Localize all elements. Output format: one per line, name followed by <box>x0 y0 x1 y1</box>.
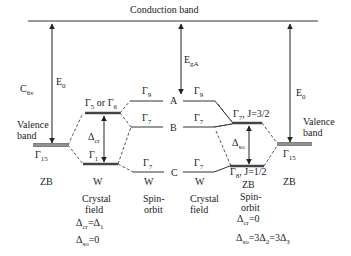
svg-text:W: W <box>93 176 103 187</box>
spin-orbit-w: Γ9 Γ7 Γ7 A B C W Spin- orbit <box>130 85 178 215</box>
right-valence-band: Valence band Γ15 ZB <box>277 116 335 187</box>
connector <box>120 113 131 127</box>
connector <box>68 145 83 164</box>
svg-text:Γ8, J=1/2: Γ8, J=1/2 <box>230 166 267 180</box>
svg-text:Γ7: Γ7 <box>194 112 204 126</box>
svg-text:ZB: ZB <box>242 179 255 190</box>
svg-text:Γ15: Γ15 <box>35 149 48 163</box>
svg-text:Spin-: Spin- <box>143 193 165 204</box>
svg-text:Γ9: Γ9 <box>194 85 204 99</box>
svg-text:band: band <box>17 130 36 141</box>
connector <box>118 127 131 164</box>
spin-orbit-zb: Γ7, J=3/2 Γ8, J=1/2 Δso ZB Spin- orbit Δ… <box>230 108 290 246</box>
ega-gap: EgA <box>181 24 199 94</box>
svg-text:orbit: orbit <box>241 202 260 213</box>
svg-text:band: band <box>303 127 322 138</box>
gamma9-level-right <box>183 101 232 122</box>
left-valence-label: Valence <box>17 119 49 130</box>
symmetry-label: C6v <box>20 83 34 97</box>
point-c: C <box>171 167 178 178</box>
crystal-field-w: Γ5 or Γ6 Γ1 Δcr W Crystal field Δcr=Δ1 Δ… <box>76 97 120 248</box>
connector <box>264 146 277 166</box>
crystal-field-w2: Γ9 Γ7 Γ7 W Crystal field <box>183 85 232 215</box>
svg-text:Γ15: Γ15 <box>283 148 296 162</box>
svg-text:W: W <box>144 176 154 187</box>
band-structure-diagram: Conduction band C6v E0 Valence band Γ15 … <box>0 0 351 256</box>
left-e0-gap: E0 <box>52 24 66 143</box>
svg-text:W: W <box>195 176 205 187</box>
right-zb-label: ZB <box>283 176 296 187</box>
svg-text:Crystal: Crystal <box>190 193 219 204</box>
svg-text:Δcr=Δ1: Δcr=Δ1 <box>76 217 104 231</box>
point-b: B <box>170 122 177 133</box>
gamma7-level-right-c <box>183 166 230 172</box>
left-zb-label: ZB <box>40 176 53 187</box>
svg-text:Γ5 or Γ6: Γ5 or Γ6 <box>85 97 117 111</box>
svg-text:Crystal: Crystal <box>82 193 111 204</box>
svg-text:Δcr: Δcr <box>88 131 101 145</box>
right-valence-label: Valence <box>303 116 335 127</box>
svg-text:orbit: orbit <box>144 204 163 215</box>
svg-text:Γ7, J=3/2: Γ7, J=3/2 <box>233 108 270 122</box>
svg-text:Γ7: Γ7 <box>143 157 153 171</box>
connector <box>118 164 133 172</box>
svg-text:Γ9: Γ9 <box>142 85 152 99</box>
conduction-band: Conduction band <box>28 4 318 21</box>
svg-text:Γ7: Γ7 <box>194 157 204 171</box>
point-a: A <box>170 95 178 106</box>
svg-text:Δso=0: Δso=0 <box>76 234 99 248</box>
connector <box>262 123 277 143</box>
svg-text:EgA: EgA <box>184 54 199 68</box>
svg-text:E0: E0 <box>56 76 66 90</box>
svg-text:Δso=3Δ2=3Δ3: Δso=3Δ2=3Δ3 <box>236 232 290 246</box>
left-valence-band: Valence band Γ15 ZB <box>17 119 68 187</box>
svg-text:field: field <box>85 204 103 215</box>
connector <box>68 113 83 145</box>
connector <box>216 131 231 166</box>
svg-text:Γ7: Γ7 <box>142 112 152 126</box>
connector <box>120 101 130 113</box>
svg-text:field: field <box>190 204 208 215</box>
svg-text:Spin-: Spin- <box>240 191 262 202</box>
svg-text:Γ1: Γ1 <box>89 149 99 163</box>
svg-text:Δso: Δso <box>232 137 245 151</box>
svg-text:Δcr=0: Δcr=0 <box>237 213 260 227</box>
svg-text:E0: E0 <box>296 87 306 101</box>
conduction-band-label: Conduction band <box>130 4 199 15</box>
